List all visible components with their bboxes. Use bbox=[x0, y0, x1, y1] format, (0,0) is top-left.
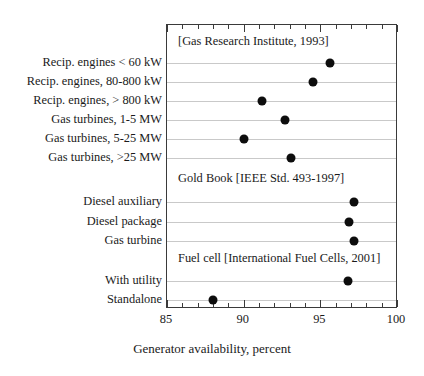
category-label: With utility bbox=[0, 274, 162, 287]
minor-tick-bottom bbox=[336, 303, 337, 307]
data-point bbox=[209, 296, 218, 305]
data-point bbox=[350, 237, 359, 246]
gridline bbox=[167, 158, 396, 159]
data-point bbox=[281, 116, 290, 125]
minor-tick-top bbox=[305, 25, 306, 29]
minor-tick-bottom bbox=[305, 303, 306, 307]
minor-tick-top bbox=[290, 25, 291, 29]
minor-tick-top bbox=[274, 25, 275, 29]
minor-tick-top bbox=[366, 25, 367, 29]
minor-tick-bottom bbox=[198, 303, 199, 307]
major-tick-bottom bbox=[167, 300, 168, 307]
minor-tick-bottom bbox=[228, 303, 229, 307]
minor-tick-top bbox=[182, 25, 183, 29]
major-tick-top bbox=[397, 25, 398, 32]
minor-tick-bottom bbox=[382, 303, 383, 307]
gridline bbox=[167, 139, 396, 140]
plot-area: [Gas Research Institute, 1993]Gold Book … bbox=[166, 24, 397, 308]
gridline bbox=[167, 300, 396, 301]
minor-tick-bottom bbox=[259, 303, 260, 307]
x-tick-label: 100 bbox=[387, 313, 406, 326]
data-point bbox=[345, 218, 354, 227]
data-point bbox=[325, 59, 334, 68]
minor-tick-bottom bbox=[290, 303, 291, 307]
minor-tick-top bbox=[228, 25, 229, 29]
data-point bbox=[287, 154, 296, 163]
major-tick-top bbox=[244, 25, 245, 32]
minor-tick-top bbox=[259, 25, 260, 29]
category-label: Recip. engines, 80-800 kW bbox=[0, 75, 162, 88]
data-point bbox=[258, 97, 267, 106]
gridline bbox=[167, 101, 396, 102]
x-tick-label: 85 bbox=[160, 313, 172, 326]
minor-tick-bottom bbox=[182, 303, 183, 307]
gridline bbox=[167, 222, 396, 223]
category-label: Recip. engines < 60 kW bbox=[0, 56, 162, 69]
minor-tick-top bbox=[351, 25, 352, 29]
section-header-2: Gold Book [IEEE Std. 493-1997] bbox=[178, 172, 344, 185]
minor-tick-bottom bbox=[366, 303, 367, 307]
gridline bbox=[167, 202, 396, 203]
minor-tick-bottom bbox=[274, 303, 275, 307]
section-header-1: [Gas Research Institute, 1993] bbox=[178, 35, 329, 48]
minor-tick-top bbox=[382, 25, 383, 29]
minor-tick-top bbox=[213, 25, 214, 29]
gridline bbox=[167, 281, 396, 282]
gridline bbox=[167, 241, 396, 242]
x-tick-label: 90 bbox=[236, 313, 248, 326]
category-label: Gas turbine bbox=[0, 234, 162, 247]
minor-tick-top bbox=[198, 25, 199, 29]
dot-plot-figure: Recip. engines < 60 kWRecip. engines, 80… bbox=[0, 0, 424, 376]
gridline bbox=[167, 63, 396, 64]
category-label: Gas turbines, 1-5 MW bbox=[0, 113, 162, 126]
data-point bbox=[350, 198, 359, 207]
minor-tick-top bbox=[336, 25, 337, 29]
section-header-3: Fuel cell [International Fuel Cells, 200… bbox=[178, 252, 380, 265]
data-point bbox=[308, 78, 317, 87]
data-point bbox=[343, 277, 352, 286]
category-label: Gas turbines, 5-25 MW bbox=[0, 132, 162, 145]
major-tick-bottom bbox=[244, 300, 245, 307]
x-axis-title: Generator availability, percent bbox=[0, 341, 424, 357]
category-label: Diesel auxiliary bbox=[0, 195, 162, 208]
data-point bbox=[239, 135, 248, 144]
major-tick-top bbox=[167, 25, 168, 32]
major-tick-bottom bbox=[320, 300, 321, 307]
major-tick-top bbox=[320, 25, 321, 32]
category-label: Standalone bbox=[0, 293, 162, 306]
gridline bbox=[167, 82, 396, 83]
category-label: Gas turbines, >25 MW bbox=[0, 151, 162, 164]
x-tick-label: 95 bbox=[313, 313, 325, 326]
minor-tick-bottom bbox=[351, 303, 352, 307]
category-label: Diesel package bbox=[0, 215, 162, 228]
category-label: Recip. engines, > 800 kW bbox=[0, 94, 162, 107]
major-tick-bottom bbox=[397, 300, 398, 307]
